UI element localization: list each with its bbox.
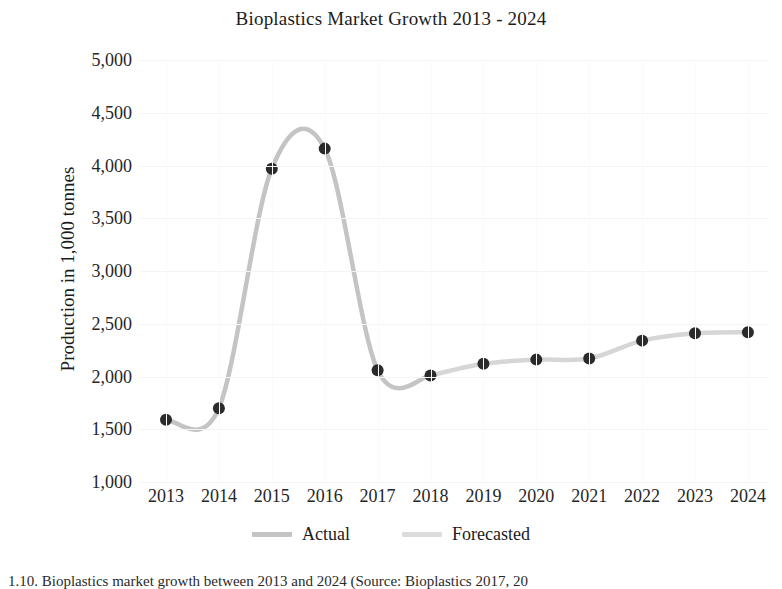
legend-label: Actual <box>302 524 350 545</box>
y-axis-tick-labels: 1,0001,5002,0002,5003,0003,5004,0004,500… <box>8 60 132 482</box>
x-gridline <box>378 60 379 482</box>
x-gridline <box>642 60 643 482</box>
x-gridline <box>219 60 220 482</box>
x-gridline <box>325 60 326 482</box>
x-tick-label: 2019 <box>453 486 513 507</box>
y-tick-label: 5,000 <box>12 50 132 71</box>
y-tick-label: 4,500 <box>12 102 132 123</box>
x-tick-label: 2024 <box>718 486 778 507</box>
chart-title: Bioplastics Market Growth 2013 - 2024 <box>0 8 782 30</box>
x-gridline <box>272 60 273 482</box>
legend-swatch-icon <box>252 532 292 537</box>
x-tick-label: 2013 <box>136 486 196 507</box>
x-tick-label: 2018 <box>401 486 461 507</box>
legend-item-actual[interactable]: Actual <box>252 524 350 545</box>
x-tick-label: 2021 <box>559 486 619 507</box>
x-gridline <box>589 60 590 482</box>
x-tick-label: 2022 <box>612 486 672 507</box>
y-gridline <box>140 482 768 483</box>
x-gridline <box>695 60 696 482</box>
y-gridline <box>140 218 768 219</box>
legend-swatch-icon <box>402 532 442 537</box>
x-gridline <box>536 60 537 482</box>
x-gridline <box>748 60 749 482</box>
chart-legend: ActualForecasted <box>0 524 782 545</box>
x-gridline <box>431 60 432 482</box>
y-tick-label: 1,500 <box>12 419 132 440</box>
x-tick-label: 2023 <box>665 486 725 507</box>
x-tick-label: 2015 <box>242 486 302 507</box>
x-gridline <box>166 60 167 482</box>
plot-area <box>140 60 768 482</box>
x-tick-label: 2016 <box>295 486 355 507</box>
y-gridline <box>140 324 768 325</box>
legend-item-forecasted[interactable]: Forecasted <box>402 524 530 545</box>
y-tick-label: 3,500 <box>12 208 132 229</box>
series-line-actual <box>166 129 431 430</box>
y-tick-label: 4,000 <box>12 155 132 176</box>
y-gridline <box>140 166 768 167</box>
y-tick-label: 3,000 <box>12 261 132 282</box>
y-gridline <box>140 113 768 114</box>
y-gridline <box>140 271 768 272</box>
y-tick-label: 2,000 <box>12 366 132 387</box>
chart-page: Bioplastics Market Growth 2013 - 2024 Pr… <box>0 0 782 589</box>
x-axis-tick-labels: 2013201420152016201720182019202020212022… <box>0 486 782 512</box>
x-tick-label: 2017 <box>348 486 408 507</box>
x-gridline <box>483 60 484 482</box>
x-tick-label: 2020 <box>506 486 566 507</box>
y-gridline <box>140 429 768 430</box>
y-gridline <box>140 377 768 378</box>
y-tick-label: 2,500 <box>12 313 132 334</box>
y-gridline <box>140 60 768 61</box>
legend-label: Forecasted <box>452 524 530 545</box>
x-tick-label: 2014 <box>189 486 249 507</box>
figure-caption: 1.10. Bioplastics market growth between … <box>8 572 778 589</box>
